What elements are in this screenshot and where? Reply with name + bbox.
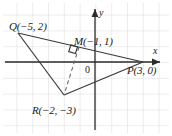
point-label-p: P(3, 0) — [127, 65, 156, 76]
point-label-m: M(−1, 1) — [74, 36, 113, 47]
point-label-q: Q(−5, 2) — [9, 21, 47, 32]
x-axis-label: x — [153, 46, 157, 56]
origin-label: 0 — [85, 65, 90, 75]
y-axis-label: y — [99, 8, 103, 18]
coordinate-geometry-figure: Q(−5, 2) M(−1, 1) P(3, 0) R(−2, −3) y x … — [0, 0, 172, 136]
point-label-r: R(−2, −3) — [32, 105, 76, 116]
